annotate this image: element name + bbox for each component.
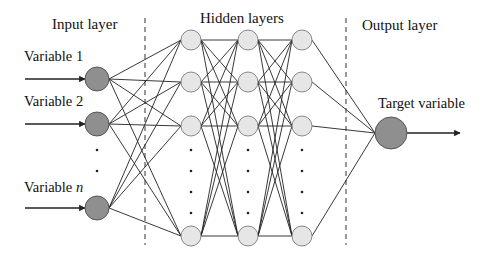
ellipsis-dot [247,149,250,152]
ellipsis-dot [190,149,193,152]
edge [312,126,375,133]
ellipsis-dot [247,191,250,194]
hidden-node [238,226,258,246]
input-node [85,112,109,136]
input-label-n: Variable n [24,179,83,195]
hidden-node [181,30,201,50]
ellipsis-dot [96,149,99,152]
hidden-node [181,72,201,92]
neural-network-diagram: Input layer Hidden layers Output layer V… [0,0,493,259]
hidden-node [292,116,312,136]
ellipsis-dot [96,170,99,173]
edge [312,82,375,133]
input-node [85,67,109,91]
hidden-node [238,30,258,50]
hidden-node [238,116,258,136]
ellipsis-dot [301,212,304,215]
input-label-1: Variable 1 [24,48,83,64]
input-label-n-symbol: n [76,179,83,195]
hidden-layers-title: Hidden layers [200,10,284,26]
ellipsis-dot [247,170,250,173]
input-label-2: Variable 2 [24,93,83,109]
network-nodes [85,30,407,246]
ellipsis-dot [190,191,193,194]
edge [312,40,375,133]
input-layer-title: Input layer [52,16,117,32]
output-layer-title: Output layer [362,17,437,33]
ellipsis-dot [301,191,304,194]
ellipsis-dot [190,212,193,215]
ellipsis-dot [247,212,250,215]
ellipsis-dot [190,170,193,173]
hidden-node [181,226,201,246]
hidden-node [292,30,312,50]
edge [312,133,375,236]
hidden-node [181,116,201,136]
hidden-node [238,72,258,92]
ellipsis-dot [301,170,304,173]
target-variable-label: Target variable [378,95,465,111]
hidden-node [292,226,312,246]
hidden-node [292,72,312,92]
ellipsis-dot [301,149,304,152]
input-node [85,196,109,220]
input-label-n-text: Variable [24,179,76,195]
output-node [375,117,407,149]
ellipsis-dots [96,149,304,215]
